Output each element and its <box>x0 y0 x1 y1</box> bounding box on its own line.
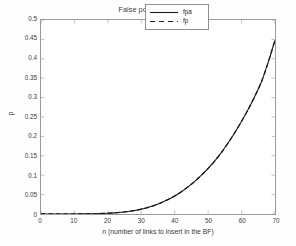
x-tick-label: 30 <box>131 218 151 224</box>
data-series-group <box>41 40 275 214</box>
y-tick-label: 0.25 <box>25 114 37 120</box>
legend-label-fp: fp <box>179 18 188 24</box>
x-tick-label: 60 <box>232 218 252 224</box>
axis-tick-marks <box>41 20 275 214</box>
chart-figure: False positives estimate 00.050.10.150.2… <box>0 0 296 246</box>
legend-line-sample-dashed <box>149 17 179 26</box>
x-axis-tick-labels: 010203040506070 <box>40 218 276 228</box>
y-tick-label: 0.05 <box>25 192 37 198</box>
plot-area <box>40 19 276 215</box>
chart-legend: fpa fp <box>145 4 209 30</box>
y-tick-label: 0.3 <box>28 94 37 100</box>
y-tick-label: 0.1 <box>28 173 37 179</box>
legend-label-fpa: fpa <box>179 9 192 15</box>
x-tick-label: 50 <box>199 218 219 224</box>
legend-entry-0: fpa <box>149 8 205 17</box>
x-tick-label: 10 <box>64 218 84 224</box>
plot-canvas <box>41 20 275 214</box>
x-tick-label: 70 <box>266 218 286 224</box>
y-tick-label: 0.15 <box>25 153 37 159</box>
x-axis-label: n (number of links to insert in the BF) <box>40 228 276 235</box>
legend-line-sample-solid <box>149 8 179 17</box>
legend-entry-1: fp <box>149 17 205 26</box>
y-tick-label: 0.4 <box>28 55 37 61</box>
y-tick-label: 0.2 <box>28 133 37 139</box>
x-tick-label: 0 <box>30 218 50 224</box>
x-tick-label: 20 <box>97 218 117 224</box>
y-tick-label: 0.45 <box>25 35 37 41</box>
y-axis-label: p <box>7 94 14 134</box>
series-line-fp <box>41 40 275 214</box>
y-tick-label: 0.5 <box>28 16 37 22</box>
series-line-fpa <box>41 40 275 214</box>
y-tick-label: 0.35 <box>25 75 37 81</box>
x-tick-label: 40 <box>165 218 185 224</box>
